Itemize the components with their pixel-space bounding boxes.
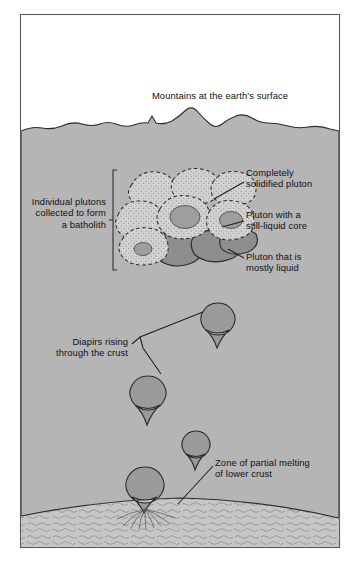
geology-figure: Mountains at the earth's surface Individ…: [0, 0, 360, 566]
label-still-liquid-core: Pluton with a still-liquid core: [246, 209, 307, 232]
label-diapirs: Diapirs rising through the crust: [22, 336, 128, 359]
label-batholith: Individual plutons collected to form a b…: [22, 196, 106, 230]
label-mountains: Mountains at the earth's surface: [122, 90, 318, 101]
label-solidified-pluton: Completely solidified pluton: [246, 167, 312, 190]
liquid-core-1: [170, 206, 200, 229]
liquid-core-2: [220, 212, 243, 229]
cross-section-svg: [0, 0, 360, 566]
label-melt-zone: Zone of partial melting of lower crust: [215, 457, 310, 480]
liquid-core-3: [134, 243, 152, 256]
label-mostly-liquid: Pluton that is mostly liquid: [246, 251, 302, 274]
